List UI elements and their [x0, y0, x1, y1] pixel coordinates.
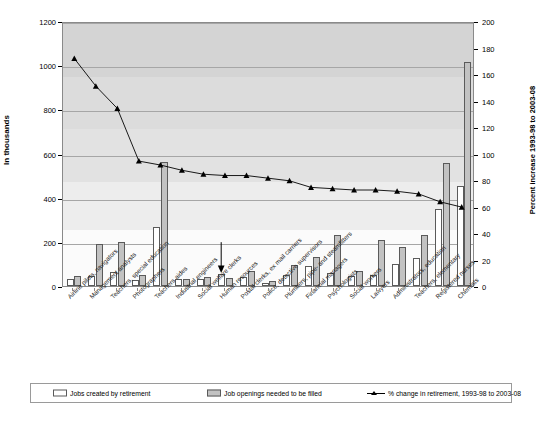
right-axis-title: Percent increase 1993-98 to 2003-08 [528, 86, 537, 214]
down-arrow-icon [218, 266, 225, 273]
legend-item-label: Jobs created by retirement [70, 390, 150, 397]
right-axis-tick-label: 60 [482, 203, 512, 212]
left-axis-tick-label: 800 [26, 106, 56, 115]
right-axis-tick-label: 20 [482, 256, 512, 265]
right-axis-tick-mark [474, 22, 478, 23]
legend-gray-bar-swatch [207, 390, 221, 397]
category-tick-mark [463, 288, 464, 291]
annotation-arrow-layer [63, 23, 473, 286]
category-tick-mark [137, 288, 138, 291]
category-tick-mark [181, 288, 182, 291]
legend-item-label: % change in retirement, 1993-98 to 2003-… [388, 390, 521, 397]
left-axis-tick-label: 600 [26, 150, 56, 159]
category-tick-mark [441, 288, 442, 291]
right-axis-tick-label: 120 [482, 124, 512, 133]
legend-item: Jobs created by retirement [53, 390, 150, 397]
category-tick-mark [159, 288, 160, 291]
left-axis-tick-mark [58, 243, 62, 244]
category-tick-mark [289, 288, 290, 291]
left-axis-title: In thousands [2, 115, 11, 165]
right-axis-tick-mark [474, 287, 478, 288]
category-tick-mark [333, 288, 334, 291]
category-tick-mark [398, 288, 399, 291]
right-axis-tick-mark [474, 181, 478, 182]
left-axis-tick-label: 400 [26, 194, 56, 203]
category-tick-mark [354, 288, 355, 291]
right-axis-tick-mark [474, 155, 478, 156]
left-axis-tick-label: 1000 [26, 62, 56, 71]
legend-item: Job openings needed to be filled [207, 390, 322, 397]
right-axis-tick-label: 160 [482, 71, 512, 80]
right-axis-tick-label: 0 [482, 283, 512, 292]
right-axis-tick-mark [474, 102, 478, 103]
right-axis-tick-mark [474, 261, 478, 262]
right-axis-tick-label: 180 [482, 44, 512, 53]
right-axis-tick-label: 200 [482, 18, 512, 27]
legend-white-bar-swatch [53, 390, 67, 397]
left-axis-tick-label: 200 [26, 238, 56, 247]
legend-line-triangle-marker [367, 389, 385, 397]
left-axis-tick-label: 0 [26, 283, 56, 292]
left-axis-tick-mark [58, 199, 62, 200]
category-tick-mark [202, 288, 203, 291]
category-tick-mark [268, 288, 269, 291]
right-axis-tick-label: 40 [482, 230, 512, 239]
left-axis-tick-mark [58, 155, 62, 156]
left-axis-tick-mark [58, 287, 62, 288]
category-tick-mark [311, 288, 312, 291]
category-tick-mark [224, 288, 225, 291]
right-axis-tick-label: 80 [482, 177, 512, 186]
left-axis-tick-label: 1200 [26, 18, 56, 27]
category-tick-mark [419, 288, 420, 291]
right-axis-tick-mark [474, 234, 478, 235]
right-axis-tick-mark [474, 75, 478, 76]
right-axis-tick-mark [474, 49, 478, 50]
right-axis-tick-mark [474, 208, 478, 209]
left-axis-tick-mark [58, 66, 62, 67]
category-tick-mark [94, 288, 95, 291]
legend-item-label: Job openings needed to be filled [224, 390, 322, 397]
category-tick-mark [116, 288, 117, 291]
right-axis-tick-label: 100 [482, 150, 512, 159]
chart-legend: Jobs created by retirementJob openings n… [30, 383, 512, 403]
left-axis-tick-mark [58, 22, 62, 23]
legend-item: % change in retirement, 1993-98 to 2003-… [367, 389, 521, 397]
category-tick-mark [246, 288, 247, 291]
right-axis-tick-label: 140 [482, 97, 512, 106]
category-tick-mark [376, 288, 377, 291]
plot-area [62, 22, 474, 287]
right-axis-tick-mark [474, 128, 478, 129]
category-tick-mark [72, 288, 73, 291]
chart-root: In thousands Percent increase 1993-98 to… [0, 0, 542, 424]
left-axis-tick-mark [58, 110, 62, 111]
